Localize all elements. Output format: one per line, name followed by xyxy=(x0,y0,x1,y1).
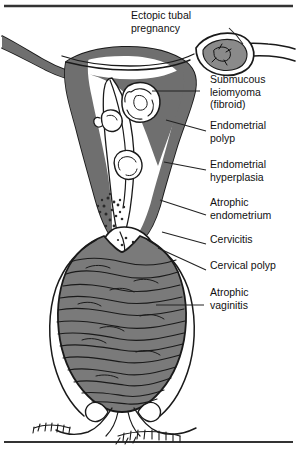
label-line: Atrophic xyxy=(210,196,249,208)
label-line: endometrium xyxy=(210,209,272,221)
label-line: vaginitis xyxy=(210,299,248,311)
label-line: Cervicitis xyxy=(210,233,253,245)
endometrial-polyp-mass xyxy=(101,110,122,132)
label-line: Endometrial xyxy=(210,119,266,131)
label-line: polyp xyxy=(210,132,235,144)
label-line: Cervical polyp xyxy=(210,259,276,271)
pathology-figure: Ectopic tubalpregnancySubmucousleiomyoma… xyxy=(0,0,297,454)
label-line: Atrophic xyxy=(210,286,249,298)
anatomy-illustration: Ectopic tubalpregnancySubmucousleiomyoma… xyxy=(0,0,297,454)
label-line: pregnancy xyxy=(131,22,181,34)
label-cervicitis: Cervicitis xyxy=(210,233,253,245)
label-atrophic-vaginitis: Atrophicvaginitis xyxy=(210,286,249,311)
label-endometrial-hyperplasia: Endometrialhyperplasia xyxy=(210,158,266,183)
label-line: Ectopic tubal xyxy=(131,9,191,21)
label-line: hyperplasia xyxy=(210,171,264,183)
label-line: (fibroid) xyxy=(210,98,246,110)
label-line: Endometrial xyxy=(210,158,266,170)
label-line: leiomyoma xyxy=(210,86,261,98)
label-cervical-polyp: Cervical polyp xyxy=(210,259,276,271)
label-line: Submucous xyxy=(210,73,265,85)
